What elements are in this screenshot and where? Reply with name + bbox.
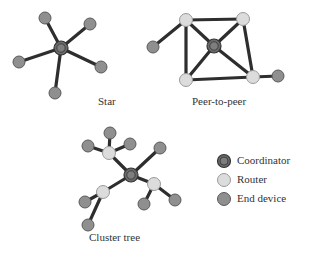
legend-router-icon — [218, 174, 231, 187]
cluster_tree-end-device-node — [104, 127, 116, 139]
network-topology-diagram — [0, 0, 312, 255]
cluster_tree-end-device-node — [82, 140, 94, 152]
legend-router-label: Router — [237, 173, 267, 185]
star-label: Star — [98, 95, 116, 107]
cluster_tree-end-device-node — [138, 198, 150, 210]
peer_to_peer-router-node — [247, 71, 260, 84]
star-end-device-node — [49, 87, 61, 99]
legend — [218, 155, 231, 206]
legend-end-device-label: End device — [237, 192, 286, 204]
star-end-device-node — [84, 18, 96, 30]
cluster_tree-end-device-node — [82, 219, 94, 231]
star-end-device-node — [95, 61, 107, 73]
peer_to_peer-link — [186, 77, 253, 80]
star-end-device-node — [13, 56, 25, 68]
cluster_tree-router-node — [148, 178, 161, 191]
cluster_tree-coordinator-node — [124, 168, 138, 182]
legend-coordinator-icon — [218, 155, 231, 168]
peer-to-peer-label: Peer-to-peer — [192, 95, 246, 107]
star-end-device-node — [39, 12, 51, 24]
cluster-tree-label: Cluster tree — [89, 231, 140, 243]
cluster_tree-end-device-node — [154, 142, 166, 154]
star-coordinator-node — [54, 41, 68, 55]
cluster_tree-end-device-node — [169, 194, 181, 206]
peer_to_peer-coordinator-node — [207, 39, 221, 53]
cluster_tree-end-device-node — [79, 196, 91, 208]
peer_to_peer-router-node — [237, 13, 250, 26]
peer_to_peer-router-node — [180, 14, 193, 27]
peer_to_peer-link — [186, 19, 243, 20]
cluster_tree-end-device-node — [124, 138, 136, 150]
peer_to_peer-end-device-node — [147, 41, 159, 53]
peer_to_peer-router-node — [180, 74, 193, 87]
legend-end-device-icon — [218, 193, 231, 206]
legend-coordinator-label: Coordinator — [237, 154, 290, 166]
peer_to_peer-end-device-node — [272, 70, 284, 82]
cluster_tree-router-node — [97, 186, 110, 199]
cluster_tree-router-node — [103, 147, 116, 160]
